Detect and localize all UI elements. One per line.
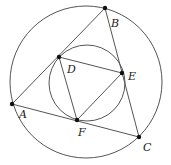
point-b [103,6,107,10]
label-f: F [77,126,86,139]
diagram-svg: A B C D E F [0,0,171,165]
point-a [10,102,14,106]
point-f [75,118,79,122]
geometry-diagram: A B C D E F [0,0,171,165]
label-b: B [110,17,119,30]
point-d [57,55,61,59]
label-c: C [143,141,152,154]
label-e: E [127,70,136,83]
label-a: A [18,108,27,121]
side-ef [77,73,122,120]
label-d: D [66,63,76,76]
point-e [120,71,124,75]
point-c [137,135,141,139]
